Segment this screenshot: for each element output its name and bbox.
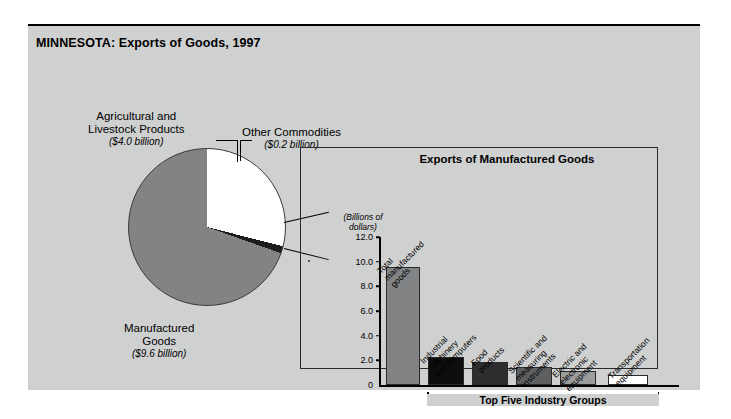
y-axis-tick-label: 0 (368, 380, 373, 390)
leader-line-agricultural-horizontal (216, 140, 238, 141)
y-axis-tick-label: 2.0 (360, 355, 373, 365)
y-axis-tick-label: 8.0 (360, 281, 373, 291)
y-axis-tick-mark (376, 286, 380, 288)
y-axis-units-label: (Billions of dollars) (334, 212, 392, 232)
page-title: MINNESOTA: Exports of Goods, 1997 (36, 36, 261, 50)
bar-category-label: Totalmanufacturedgoods (376, 232, 433, 289)
pie-label-agricultural-line1: Agricultural and (96, 110, 176, 122)
y-axis-tick-label: 10.0 (355, 257, 373, 267)
pie-label-agricultural-line2: Livestock Products (88, 123, 185, 135)
leader-line-other-vertical (240, 140, 241, 161)
y-axis-tick-label: 12.0 (355, 232, 373, 242)
pie-label-manufactured-line1: Manufactured (124, 322, 194, 334)
bar-plot-area: 02.04.06.08.010.012.0Totalmanufacturedgo… (380, 237, 678, 385)
figure-panel: MINNESOTA: Exports of Goods, 1997 Agricu… (28, 24, 700, 390)
pie-label-manufactured-line2: Goods (142, 335, 176, 347)
y-axis-units-line1: (Billions of (343, 212, 382, 222)
pie-label-other-line1: Other Commodities (242, 126, 341, 138)
y-axis-tick-label: 4.0 (360, 331, 373, 341)
y-axis-units-line2: dollars) (349, 222, 377, 232)
y-axis-tick-mark (376, 335, 380, 337)
leader-line-agricultural-vertical (237, 140, 238, 162)
pie-label-agricultural: Agricultural and Livestock Products ($4.… (88, 110, 185, 148)
pie-slices (128, 148, 286, 306)
pie-label-manufactured-goods: Manufactured Goods ($9.6 billion) (124, 322, 194, 360)
top-five-bracket: Top Five Industry Groups (427, 392, 659, 402)
pie-chart (128, 148, 286, 306)
y-axis-tick-mark (376, 261, 380, 263)
y-axis-tick-label: 6.0 (360, 306, 373, 316)
y-axis-tick-mark (376, 310, 380, 312)
y-axis-tick-mark (376, 360, 380, 362)
pie-label-manufactured-amount: ($9.6 billion) (124, 348, 194, 360)
bracket-label: Top Five Industry Groups (427, 394, 659, 406)
pie-label-agricultural-amount: ($4.0 billion) (88, 136, 185, 148)
y-axis-tick-mark (376, 236, 380, 238)
bracket-label-text: Top Five Industry Groups (474, 394, 613, 406)
